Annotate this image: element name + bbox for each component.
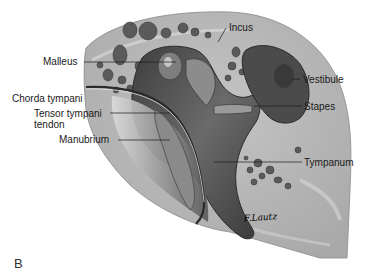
label-manubrium: Manubrium: [59, 134, 109, 145]
ear-illustration: F.Lautz: [0, 0, 369, 280]
label-vestibule: Vestibule: [303, 74, 344, 85]
label-tympanum: Tympanum: [304, 157, 353, 168]
panel-letter: B: [14, 256, 23, 271]
label-stapes: Stapes: [304, 101, 335, 112]
ear-anatomy-figure: F.Lautz Incus Malleus Vestibule Chorda t…: [0, 0, 369, 280]
label-incus: Incus: [229, 22, 253, 33]
stapes-bone: [214, 105, 252, 115]
label-tensor-tympani-line2: tendon: [34, 119, 65, 130]
label-chorda-tympani: Chorda tympani: [12, 93, 83, 104]
label-malleus: Malleus: [43, 56, 77, 67]
label-tensor-tympani-line1: Tensor tympani: [34, 108, 102, 119]
